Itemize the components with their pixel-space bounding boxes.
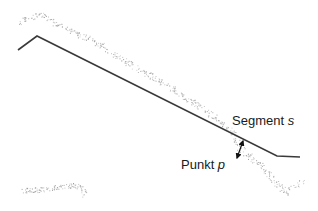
diagram-canvas <box>0 0 318 211</box>
distance-arrow-icon <box>237 141 243 158</box>
point-label-text: Punkt <box>181 157 218 172</box>
point-label: Punkt p <box>181 158 225 171</box>
point-label-var: p <box>218 157 225 172</box>
segment-line <box>18 36 300 157</box>
segment-label-text: Segment <box>232 113 288 128</box>
segment-label: Segment s <box>232 114 294 127</box>
segment-label-var: s <box>288 113 295 128</box>
point-cloud <box>19 13 305 196</box>
point-cloud-lower <box>22 183 88 198</box>
